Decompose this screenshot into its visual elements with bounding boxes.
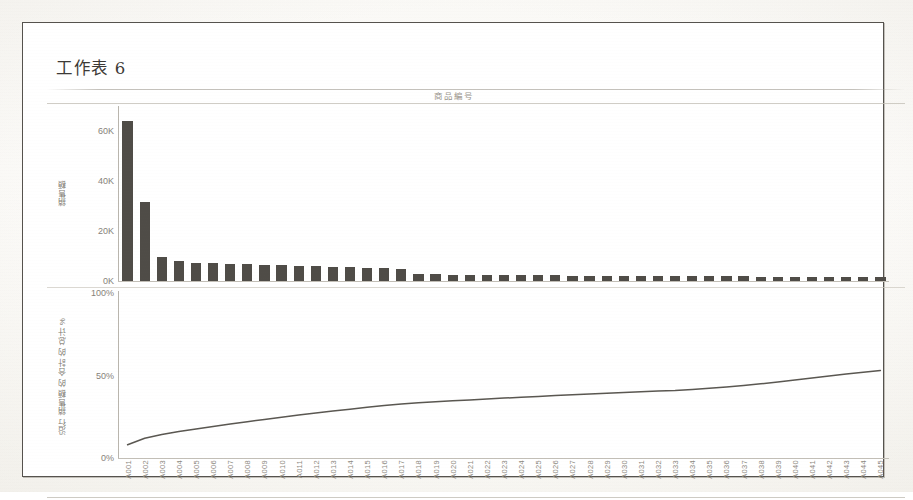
x-axis-tick-label[interactable]: A002 [141,460,150,479]
x-axis-tick-label[interactable]: A038 [757,460,766,479]
x-axis-tick-label[interactable]: A030 [620,460,629,479]
x-axis-tick-label[interactable]: A028 [586,460,595,479]
x-axis-tick-label[interactable]: A044 [859,460,868,479]
bar[interactable] [653,276,663,281]
bar[interactable] [841,277,851,281]
bar[interactable] [875,277,885,281]
x-axis-tick-label[interactable]: A031 [637,460,646,479]
x-axis-tick-label[interactable]: A020 [449,460,458,479]
bar-y-tick: 20K [98,226,114,236]
bar[interactable] [122,121,132,281]
bar[interactable] [619,276,629,281]
bar[interactable] [208,263,218,281]
x-axis-tick-label[interactable]: A021 [466,460,475,479]
bar[interactable] [174,261,184,282]
bar[interactable] [157,257,167,282]
bar[interactable] [499,275,509,281]
x-axis-tick-label[interactable]: A024 [517,460,526,479]
x-axis-tick-label[interactable]: A039 [774,460,783,479]
x-axis-tick-label[interactable]: A016 [380,460,389,479]
line-y-tick: 50% [96,371,114,381]
x-axis-tick-label[interactable]: A033 [671,460,680,479]
page-title: 工作表 6 [56,55,126,79]
x-axis-tick-label[interactable]: A014 [346,460,355,479]
bar[interactable] [311,266,321,281]
bar[interactable] [140,202,150,281]
bar[interactable] [756,277,766,282]
bar[interactable] [721,276,731,281]
x-axis-tick-label[interactable]: A032 [654,460,663,479]
x-axis-tick-label[interactable]: A037 [740,460,749,479]
x-axis-tick-label[interactable]: A026 [551,460,560,479]
bar[interactable] [259,265,269,281]
bar[interactable] [807,277,817,281]
bar-y-tick: 40K [98,176,114,186]
x-axis-tick-label[interactable]: A004 [175,460,184,479]
x-axis-tick-label[interactable]: A003 [158,460,167,479]
x-axis-tick-label[interactable]: A019 [432,460,441,479]
bar[interactable] [328,267,338,281]
x-axis-tick-label[interactable]: A006 [209,460,218,479]
bar-y-tick: 60K [98,126,114,136]
bar[interactable] [636,276,646,281]
x-axis-tick-label[interactable]: A012 [312,460,321,479]
x-axis-tick-label[interactable]: A045 [876,460,885,479]
bar[interactable] [430,274,440,281]
x-axis-tick-label[interactable]: A007 [226,460,235,479]
x-axis-tick-label[interactable]: A013 [329,460,338,479]
bar[interactable] [687,276,697,281]
bar[interactable] [379,268,389,281]
x-axis-tick-label[interactable]: A043 [842,460,851,479]
bar[interactable] [533,275,543,281]
x-axis-tick-label[interactable]: A001 [124,460,133,479]
bar[interactable] [567,276,577,282]
bar[interactable] [516,275,526,281]
x-axis-tick-label[interactable]: A005 [192,460,201,479]
x-axis-tick-label[interactable]: A022 [483,460,492,479]
x-axis-tick-label[interactable]: A010 [278,460,287,479]
bar[interactable] [738,276,748,281]
x-axis-tick-label[interactable]: A035 [705,460,714,479]
x-axis-tick-label[interactable]: A042 [825,460,834,479]
bar[interactable] [704,276,714,281]
x-axis-tick-label[interactable]: A015 [363,460,372,479]
bar[interactable] [482,275,492,281]
x-axis-tick-label[interactable]: A008 [243,460,252,479]
bar[interactable] [276,265,286,281]
bar[interactable] [584,276,594,281]
bar[interactable] [396,269,406,281]
x-axis-label-group: A001A002A003A004A005A006A007A008A009A010… [119,460,889,500]
x-axis-tick-label[interactable]: A009 [260,460,269,479]
x-axis-tick-label[interactable]: A034 [688,460,697,479]
bar[interactable] [550,275,560,281]
bar[interactable] [413,274,423,282]
bar[interactable] [602,276,612,281]
bar[interactable] [790,277,800,281]
x-axis-tick-label[interactable]: A029 [603,460,612,479]
x-axis-tick-label[interactable]: A040 [791,460,800,479]
header-divider [47,103,905,104]
bar[interactable] [191,263,201,282]
bar[interactable] [773,277,783,281]
x-axis-tick-label[interactable]: A041 [808,460,817,479]
x-axis-tick-label[interactable]: A025 [534,460,543,479]
bar[interactable] [858,277,868,281]
bar[interactable] [242,264,252,281]
bar[interactable] [824,277,834,281]
x-axis-tick-label[interactable]: A027 [568,460,577,479]
bar[interactable] [448,275,458,282]
x-axis-tick-label[interactable]: A011 [295,460,304,478]
bar[interactable] [225,264,235,281]
x-axis-tick-label[interactable]: A017 [397,460,406,479]
x-axis-tick-label[interactable]: A036 [722,460,731,479]
x-axis-tick-label[interactable]: A023 [500,460,509,479]
line-y-axis-title: 沿行 銷售額 的 合計 的 总计 % [57,305,68,447]
bar[interactable] [465,275,475,281]
bar[interactable] [362,268,372,281]
bar[interactable] [345,267,355,281]
bar[interactable] [670,276,680,281]
x-axis-tick-label[interactable]: A018 [414,460,423,479]
bar[interactable] [294,266,304,281]
x-axis-bottom-rule [47,497,905,498]
